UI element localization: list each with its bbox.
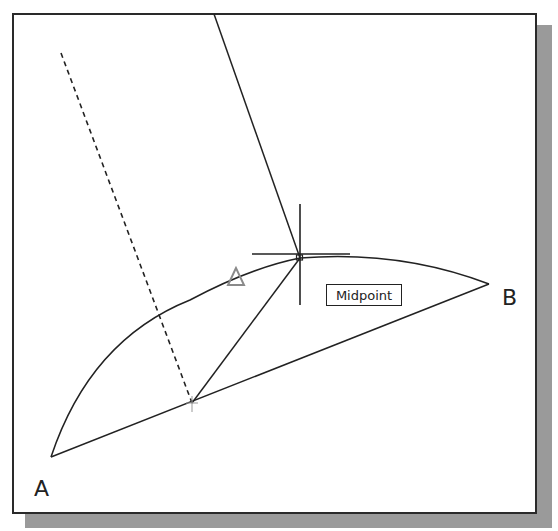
chord-line-ab[interactable] — [51, 284, 489, 457]
osnap-tooltip-text: Midpoint — [336, 288, 392, 303]
point-label-b: B — [502, 287, 517, 309]
osnap-tooltip: Midpoint — [326, 284, 402, 306]
point-label-a: A — [34, 478, 49, 500]
bisector-line[interactable] — [192, 258, 300, 403]
rubber-band-line — [214, 14, 300, 258]
drawing-canvas — [0, 0, 558, 531]
dashed-construction-line[interactable] — [61, 53, 192, 403]
arc-ab[interactable] — [51, 256, 489, 457]
